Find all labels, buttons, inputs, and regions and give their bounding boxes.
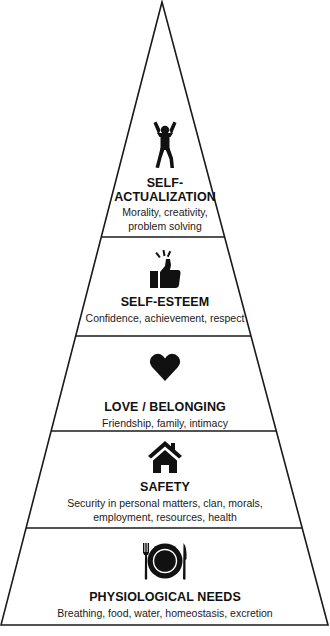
level-description: problem solving — [0, 219, 330, 233]
level-title: SELF-ESTEEM — [0, 295, 330, 309]
level-title: ACTUALIZATION — [0, 190, 330, 204]
level-title: PHYSIOLOGICAL NEEDS — [0, 590, 330, 604]
plate-fork-knife-icon — [141, 541, 189, 581]
level-description: Morality, creativity, — [0, 205, 330, 219]
level-self-esteem: SELF-ESTEEM Confidence, achievement, res… — [0, 250, 330, 325]
level-love-belonging: LOVE / BELONGING Friendship, family, int… — [0, 352, 330, 430]
level-title: SELF- — [0, 176, 330, 190]
level-physiological: PHYSIOLOGICAL NEEDS Breathing, food, wat… — [0, 541, 330, 620]
level-description: Security in personal matters, clan, mora… — [0, 496, 330, 510]
level-title: LOVE / BELONGING — [0, 400, 330, 414]
heart-icon — [149, 352, 181, 382]
level-self-actualization: SELF- ACTUALIZATION Morality, creativity… — [0, 120, 330, 233]
thumbs-up-icon — [148, 250, 182, 290]
level-description: employment, resources, health — [0, 510, 330, 524]
level-safety: SAFETY Security in personal matters, cla… — [0, 440, 330, 524]
level-description: Breathing, food, water, homeostasis, exc… — [0, 606, 330, 620]
person-arms-raised-icon — [152, 120, 178, 170]
level-description: Confidence, achievement, respect — [0, 311, 330, 325]
level-description: Friendship, family, intimacy — [0, 416, 330, 430]
house-icon — [147, 440, 183, 474]
level-title: SAFETY — [0, 480, 330, 494]
